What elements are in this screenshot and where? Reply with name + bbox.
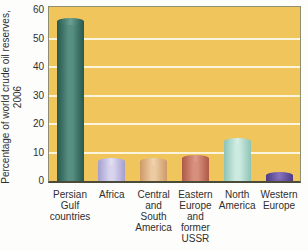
y-tick-60: 60 bbox=[0, 4, 44, 16]
bar-central-and-south-america bbox=[140, 161, 167, 181]
y-tick-0: 0 bbox=[0, 175, 44, 187]
x-label-western-europe: Western Europe bbox=[250, 189, 308, 211]
bar-top-cap bbox=[266, 172, 293, 179]
y-tick-20: 20 bbox=[0, 118, 44, 130]
bar-persian-gulf-countries bbox=[57, 21, 84, 181]
bar-top-cap bbox=[182, 155, 209, 162]
bar-top-cap bbox=[224, 138, 251, 145]
bar-africa bbox=[98, 161, 125, 181]
bar-chart-figure: Percentage of world crude oil reserves, … bbox=[0, 0, 308, 251]
bar-top-cap bbox=[98, 158, 125, 165]
bar-eastern-europe-and-former-ussr bbox=[182, 158, 209, 181]
gridline-30 bbox=[49, 95, 300, 97]
gridline-40 bbox=[49, 66, 300, 68]
bar-north-america bbox=[224, 141, 251, 181]
gridline-10 bbox=[49, 152, 300, 154]
bar-western-europe bbox=[266, 175, 293, 181]
y-tick-50: 50 bbox=[0, 33, 44, 45]
bar-top-cap bbox=[140, 158, 167, 165]
y-tick-10: 10 bbox=[0, 147, 44, 159]
gridline-50 bbox=[49, 38, 300, 40]
plot-area bbox=[48, 6, 301, 183]
y-tick-40: 40 bbox=[0, 61, 44, 73]
gridline-20 bbox=[49, 123, 300, 125]
y-tick-30: 30 bbox=[0, 90, 44, 102]
bar-top-cap bbox=[57, 18, 84, 25]
